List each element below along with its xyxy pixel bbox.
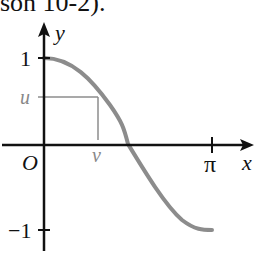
cosine-diagram: y x O 1 −1 π u v xyxy=(0,0,259,256)
x-axis-label: x xyxy=(241,150,252,175)
v-label: v xyxy=(92,144,101,166)
origin-label: O xyxy=(22,150,38,175)
y-axis-label: y xyxy=(53,20,65,45)
y-tick-label-1: 1 xyxy=(20,46,31,71)
u-label: u xyxy=(20,86,30,108)
y-tick-label-neg1: −1 xyxy=(8,218,31,243)
x-tick-label-pi: π xyxy=(204,151,216,177)
